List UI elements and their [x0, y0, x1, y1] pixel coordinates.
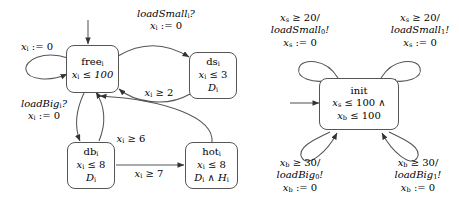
node-hot-invariant: xi ≤ 8 [197, 159, 226, 172]
label-loadbig1-reset: xb := 0 [374, 182, 459, 194]
label-loadbig1: xb ≥ 30/ loadBig1! xb := 0 [374, 157, 459, 194]
label-db-to-free: xi ≥ 6 [104, 133, 158, 145]
node-hot-name: hoti [202, 146, 221, 159]
diagram-canvas: freei xi ≤ 100 dsi xi ≤ 3 Di dbi xi ≤ 8 … [0, 0, 459, 209]
label-loadsmall1-guard: xs ≥ 20/ [372, 12, 459, 24]
node-init-name: init [351, 85, 368, 97]
node-ds-predicate: Di [208, 82, 218, 95]
label-loadbig1-sync: loadBig1! [374, 169, 459, 181]
label-ds-to-free: xi ≥ 2 [131, 87, 187, 99]
node-ds[interactable]: dsi xi ≤ 3 Di [189, 52, 237, 99]
label-loadsmall0: xs ≥ 20/ loadSmall0! xs := 0 [252, 12, 348, 49]
label-loadbig0: xb ≥ 30/ loadBig0! xb := 0 [256, 157, 344, 194]
node-free-name: freei [81, 56, 103, 69]
node-db-invariant: xi ≤ 8 [77, 159, 106, 172]
edge-db-to-free [96, 92, 104, 141]
label-loadbig1-guard: xb ≥ 30/ [374, 157, 459, 169]
node-free[interactable]: freei xi ≤ 100 [66, 45, 119, 93]
label-loadsmall1-sync: loadSmall1! [372, 24, 459, 36]
node-db-name: dbi [84, 146, 99, 159]
label-loadsmall0-guard: xs ≥ 20/ [252, 12, 348, 24]
label-loadbig0-reset: xb := 0 [256, 182, 344, 194]
label-db-to-hot: xi ≥ 7 [122, 168, 176, 180]
edge-free-to-ds [118, 46, 189, 57]
node-free-invariant: xi ≤ 100 [72, 69, 114, 82]
node-db[interactable]: dbi xi ≤ 8 Di [67, 142, 115, 189]
label-loadbig0-guard: xb ≥ 30/ [256, 157, 344, 169]
node-hot[interactable]: hoti xi ≤ 8 Di ∧ Hi [185, 142, 238, 189]
label-loadsmall1: xs ≥ 20/ loadSmall1! xs := 0 [372, 12, 459, 49]
edge-free-self [26, 55, 68, 79]
label-loadsmall1-reset: xs := 0 [372, 37, 459, 49]
label-free-to-ds-sync: loadSmalli? [120, 8, 212, 20]
node-ds-name: dsi [206, 56, 220, 69]
node-ds-invariant: xi ≤ 3 [199, 69, 228, 82]
label-free-to-ds-reset: xi := 0 [120, 20, 212, 32]
label-free-to-ds: loadSmalli? xi := 0 [120, 8, 212, 33]
node-init-invariant-line1: xs ≤ 100 ∧ [332, 97, 385, 110]
node-db-predicate: Di [86, 172, 96, 185]
label-loadbig0-sync: loadBig0! [256, 169, 344, 181]
label-free-to-db-sync: loadBigi? [8, 98, 80, 110]
label-free-to-db-reset: xi := 0 [8, 110, 80, 122]
node-hot-predicate: Di ∧ Hi [194, 172, 229, 185]
node-init[interactable]: init xs ≤ 100 ∧ xb ≤ 100 [319, 78, 399, 130]
label-free-self: xi := 0 [8, 41, 66, 53]
label-loadsmall0-reset: xs := 0 [252, 37, 348, 49]
node-init-invariant-line2: xb ≤ 100 [337, 110, 381, 123]
label-free-to-db: loadBigi? xi := 0 [8, 98, 80, 123]
label-loadsmall0-sync: loadSmall0! [252, 24, 348, 36]
